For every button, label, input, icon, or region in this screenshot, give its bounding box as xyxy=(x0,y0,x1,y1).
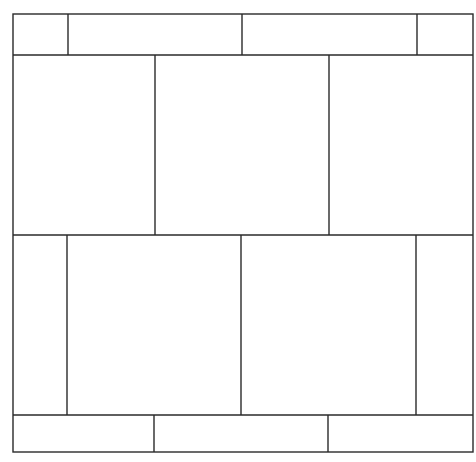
bottom-strip-dividers xyxy=(154,415,328,452)
top-strip-dividers xyxy=(68,14,417,55)
upper-panel-dividers xyxy=(155,55,329,235)
panel-layout-diagram xyxy=(0,0,476,462)
outer-frame xyxy=(13,14,473,452)
lower-panel-dividers xyxy=(67,235,416,415)
